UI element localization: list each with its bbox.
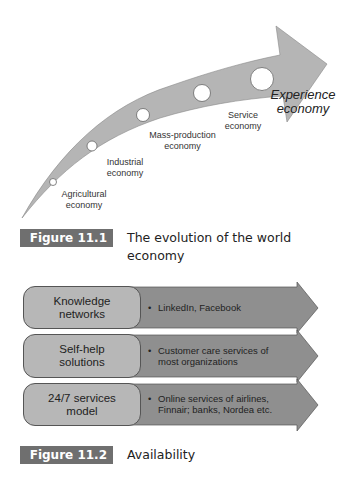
row-text-line: LinkedIn, Facebook	[158, 302, 241, 313]
row-label-line: networks	[54, 308, 111, 321]
row-label-box-24-7: 24/7 servicesmodel	[23, 383, 141, 426]
bullet-icon: •	[148, 345, 158, 356]
row-text-line: Customer care services of	[158, 345, 268, 356]
row-text-line: Online services of airlines,	[158, 393, 269, 404]
bullet-icon: •	[148, 302, 158, 313]
row-label-line: Knowledge	[54, 295, 111, 308]
row-text-line: Finnair; banks, Nordea etc.	[158, 404, 272, 415]
row-text-line: most organizations	[158, 356, 238, 367]
row-label-line: solutions	[59, 356, 104, 369]
row-text-self-help: •Customer care services of most organiza…	[148, 345, 268, 367]
row-label-line: model	[48, 405, 116, 418]
row-label-line: Self-help	[59, 343, 104, 356]
row-label-box-self-help: Self-helpsolutions	[23, 334, 141, 378]
row-label-line: 24/7 services	[48, 392, 116, 405]
row-text-24-7: •Online services of airlines, Finnair; b…	[148, 393, 272, 415]
figure-11-2-label: Figure 11.2	[20, 446, 113, 464]
bullet-icon: •	[148, 393, 158, 404]
row-label-box-knowledge: Knowledgenetworks	[23, 286, 141, 329]
row-text-knowledge: •LinkedIn, Facebook	[148, 302, 241, 313]
figure-11-2-caption: Availability	[127, 446, 195, 464]
